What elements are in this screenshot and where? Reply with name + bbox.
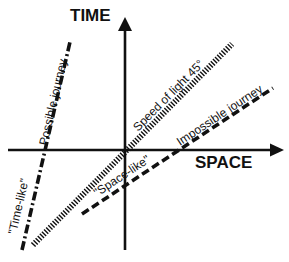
diagram-canvas: TIME SPACE Speed of light 45° Possible j…	[0, 0, 289, 262]
time-axis-label: TIME	[70, 6, 111, 25]
spacetime-diagram: TIME SPACE Speed of light 45° Possible j…	[0, 0, 289, 262]
impossible-journey-label: Impossible journey	[174, 82, 265, 149]
space-axis-label: SPACE	[195, 153, 252, 172]
space-axis-arrowhead	[270, 144, 284, 157]
time-axis-arrowhead	[118, 17, 132, 31]
possible-journey-label: Possible journey	[36, 58, 69, 147]
